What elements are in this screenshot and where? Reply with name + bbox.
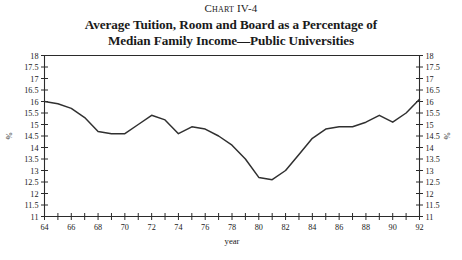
y-axis-title-right: % <box>442 132 452 139</box>
x-tick-label: 84 <box>308 223 316 232</box>
chart-plot-area: 111111.511.5121212.512.5131313.513.51414… <box>0 0 462 260</box>
y-tick-label-right: 14 <box>426 144 434 153</box>
x-axis-title: year <box>225 236 240 246</box>
y-tick-label-right: 13.5 <box>426 155 440 164</box>
x-tick-label: 88 <box>362 223 370 232</box>
y-tick-label-left: 11.5 <box>24 201 38 210</box>
y-tick-label-left: 11 <box>31 213 39 222</box>
y-tick-label-left: 12.5 <box>24 178 38 187</box>
chart-page: Chart IV-4 Average Tuition, Room and Boa… <box>0 0 462 260</box>
y-tick-label-left: 13 <box>30 167 38 176</box>
y-tick-label-left: 17.5 <box>24 63 38 72</box>
series-line-tuition-percent <box>45 99 420 180</box>
y-tick-label-right: 16.5 <box>426 86 440 95</box>
y-tick-label-right: 11.5 <box>426 201 440 210</box>
y-tick-label-left: 16.5 <box>24 86 38 95</box>
ticks-group <box>41 56 423 221</box>
y-tick-label-left: 17 <box>30 75 38 84</box>
x-tick-label: 82 <box>281 223 289 232</box>
x-tick-label: 68 <box>94 223 102 232</box>
y-tick-label-left: 14 <box>30 144 38 153</box>
tick-labels-group: 111111.511.5121212.512.5131313.513.51414… <box>24 52 440 232</box>
y-tick-label-right: 15.5 <box>426 109 440 118</box>
chart-svg: 111111.511.5121212.512.5131313.513.51414… <box>0 0 462 260</box>
x-tick-label: 66 <box>67 223 75 232</box>
x-tick-label: 80 <box>255 223 263 232</box>
y-tick-label-right: 13 <box>426 167 434 176</box>
x-tick-label: 72 <box>148 223 156 232</box>
y-tick-label-right: 12 <box>426 190 434 199</box>
y-tick-label-right: 11 <box>426 213 434 222</box>
y-tick-label-right: 18 <box>426 52 434 61</box>
x-tick-label: 76 <box>201 223 209 232</box>
y-tick-label-right: 16 <box>426 98 434 107</box>
y-tick-label-right: 17.5 <box>426 63 440 72</box>
y-tick-label-right: 15 <box>426 121 434 130</box>
x-tick-label: 86 <box>335 223 343 232</box>
y-tick-label-left: 15.5 <box>24 109 38 118</box>
y-tick-label-right: 14.5 <box>426 132 440 141</box>
y-tick-label-left: 14.5 <box>24 132 38 141</box>
y-tick-label-right: 12.5 <box>426 178 440 187</box>
x-tick-label: 64 <box>40 223 48 232</box>
y-axis-title-left: % <box>4 132 14 139</box>
axes-group <box>45 56 420 217</box>
y-tick-label-left: 16 <box>30 98 38 107</box>
y-tick-label-left: 15 <box>30 121 38 130</box>
x-tick-label: 92 <box>415 223 423 232</box>
x-tick-label: 70 <box>121 223 129 232</box>
x-tick-label: 78 <box>228 223 236 232</box>
x-tick-label: 74 <box>174 223 182 232</box>
y-tick-label-left: 12 <box>30 190 38 199</box>
y-tick-label-right: 17 <box>426 75 434 84</box>
x-tick-label: 90 <box>389 223 397 232</box>
y-tick-label-left: 13.5 <box>24 155 38 164</box>
y-tick-label-left: 18 <box>30 52 38 61</box>
